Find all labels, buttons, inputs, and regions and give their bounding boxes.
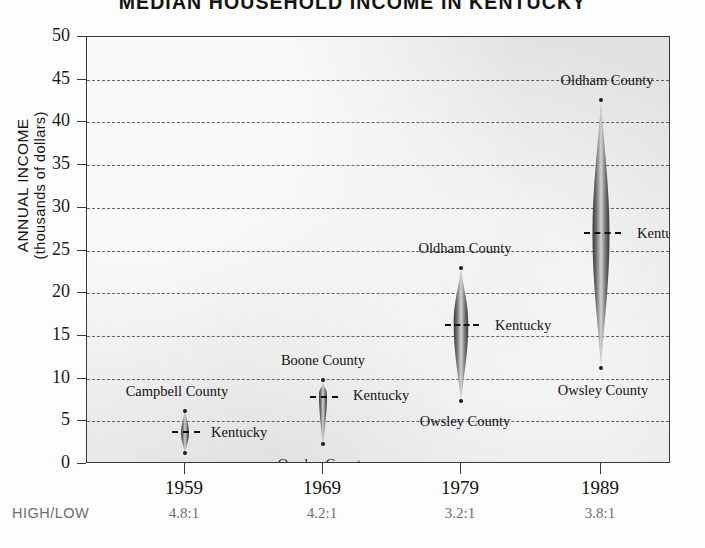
low-label-1979: Owsley County xyxy=(420,413,511,430)
high-endpoint-dot-1979 xyxy=(459,266,463,270)
median-marker-1959 xyxy=(172,431,200,433)
high-endpoint-dot-1959 xyxy=(183,409,187,413)
y-tick-mark xyxy=(77,335,86,336)
median-label-1959: Kentucky xyxy=(211,424,267,441)
y-tick-mark xyxy=(77,378,86,379)
y-tick-label: 20 xyxy=(28,281,70,302)
y-tick-mark xyxy=(77,420,86,421)
low-label-1959: Owsley County xyxy=(136,461,227,463)
y-tick-mark xyxy=(77,207,86,208)
chart-figure: MEDIAN HOUSEHOLD INCOME IN KENTUCKY ANNU… xyxy=(0,0,705,548)
high-low-row-label: HIGH/LOW xyxy=(12,505,89,521)
y-tick-mark xyxy=(77,121,86,122)
x-tick-label-1959: 1959 xyxy=(129,477,239,499)
median-marker-1989 xyxy=(584,232,621,234)
high-low-ratio-1989: 3.8:1 xyxy=(545,505,655,522)
low-label-1969: Owsley County xyxy=(278,456,369,463)
x-tick-label-1979: 1979 xyxy=(405,477,515,499)
low-endpoint-dot-1969 xyxy=(321,442,325,446)
x-tick-label-1969: 1969 xyxy=(267,477,377,499)
low-endpoint-dot-1989 xyxy=(599,366,603,370)
plot-area: Campbell CountyKentuckyOwsley CountyBoon… xyxy=(86,36,670,463)
median-marker-1969 xyxy=(310,396,338,398)
y-axis-title-main: ANNUAL INCOME xyxy=(14,118,31,252)
y-tick-label: 5 xyxy=(28,409,70,430)
x-tick-mark xyxy=(460,463,461,474)
high-low-ratio-1959: 4.8:1 xyxy=(129,505,239,522)
y-axis-title-sub: (thousands of dollars) xyxy=(32,111,48,259)
high-label-1989: Oldham County xyxy=(560,72,653,89)
median-marker-1979 xyxy=(445,324,480,326)
y-tick-label: 45 xyxy=(28,68,70,89)
x-tick-mark xyxy=(184,463,185,474)
y-tick-label: 25 xyxy=(28,239,70,260)
high-low-ratio-1979: 3.2:1 xyxy=(405,505,515,522)
y-tick-label: 50 xyxy=(28,25,70,46)
range-lens-1969 xyxy=(319,380,327,444)
chart-title: MEDIAN HOUSEHOLD INCOME IN KENTUCKY xyxy=(0,0,705,14)
x-tick-label-1989: 1989 xyxy=(545,477,655,499)
y-tick-mark xyxy=(77,292,86,293)
high-endpoint-dot-1969 xyxy=(321,378,325,382)
x-tick-mark xyxy=(322,463,323,474)
high-label-1959: Campbell County xyxy=(126,383,229,400)
y-tick-mark xyxy=(77,250,86,251)
y-axis-title: ANNUAL INCOME (thousands of dollars) xyxy=(14,60,49,310)
y-tick-label: 15 xyxy=(28,324,70,345)
y-tick-mark xyxy=(77,164,86,165)
y-tick-label: 10 xyxy=(28,367,70,388)
y-tick-mark xyxy=(77,463,86,464)
range-lens-1979 xyxy=(454,268,469,401)
y-tick-mark xyxy=(77,79,86,80)
y-tick-label: 0 xyxy=(28,452,70,473)
median-label-1979: Kentucky xyxy=(495,317,551,334)
y-tick-label: 30 xyxy=(28,196,70,217)
low-label-1989: Owsley County xyxy=(558,382,649,399)
y-tick-label: 35 xyxy=(28,153,70,174)
median-label-1969: Kentucky xyxy=(353,387,409,404)
low-endpoint-dot-1959 xyxy=(183,451,187,455)
high-low-ratio-1969: 4.2:1 xyxy=(267,505,377,522)
median-label-1989: Kentucky xyxy=(637,225,670,242)
y-tick-mark xyxy=(77,36,86,37)
low-endpoint-dot-1979 xyxy=(459,399,463,403)
high-label-1979: Oldham County xyxy=(418,240,511,257)
y-tick-label: 40 xyxy=(28,110,70,131)
x-tick-mark xyxy=(600,463,601,474)
high-label-1969: Boone County xyxy=(281,352,365,369)
high-endpoint-dot-1989 xyxy=(599,98,603,102)
